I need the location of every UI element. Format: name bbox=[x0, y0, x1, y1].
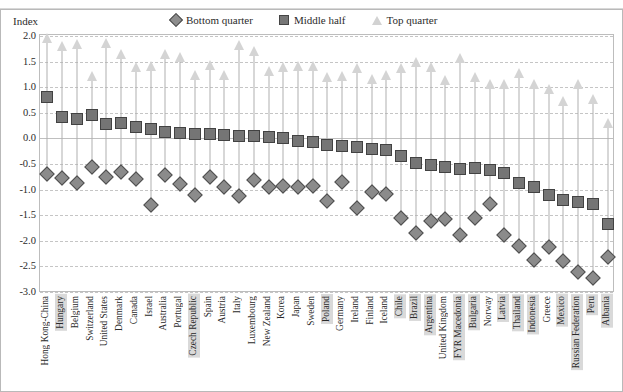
top-quarter-marker[interactable] bbox=[455, 53, 465, 63]
middle-half-marker[interactable] bbox=[41, 91, 53, 103]
bottom-quarter-marker[interactable] bbox=[202, 169, 218, 185]
top-quarter-marker[interactable] bbox=[101, 38, 111, 48]
top-quarter-marker[interactable] bbox=[470, 72, 480, 82]
bottom-quarter-marker[interactable] bbox=[187, 187, 203, 203]
data-column[interactable] bbox=[173, 35, 188, 291]
middle-half-marker[interactable] bbox=[233, 130, 245, 142]
top-quarter-marker[interactable] bbox=[146, 61, 156, 71]
bottom-quarter-marker[interactable] bbox=[128, 172, 144, 188]
middle-half-marker[interactable] bbox=[204, 128, 216, 140]
middle-half-marker[interactable] bbox=[100, 118, 112, 130]
bottom-quarter-marker[interactable] bbox=[364, 184, 380, 200]
bottom-quarter-marker[interactable] bbox=[69, 176, 85, 192]
top-quarter-marker[interactable] bbox=[175, 52, 185, 62]
data-column[interactable] bbox=[202, 35, 217, 291]
data-column[interactable] bbox=[379, 35, 394, 291]
middle-half-marker[interactable] bbox=[56, 111, 68, 123]
top-quarter-marker[interactable] bbox=[411, 57, 421, 67]
middle-half-marker[interactable] bbox=[425, 159, 437, 171]
top-quarter-marker[interactable] bbox=[234, 40, 244, 50]
middle-half-marker[interactable] bbox=[572, 196, 584, 208]
bottom-quarter-marker[interactable] bbox=[231, 188, 247, 204]
bottom-quarter-marker[interactable] bbox=[452, 227, 468, 243]
top-quarter-marker[interactable] bbox=[219, 70, 229, 80]
middle-half-marker[interactable] bbox=[498, 167, 510, 179]
data-column[interactable] bbox=[143, 35, 158, 291]
top-quarter-marker[interactable] bbox=[57, 41, 67, 51]
bottom-quarter-marker[interactable] bbox=[379, 186, 395, 202]
middle-half-marker[interactable] bbox=[366, 143, 378, 155]
bottom-quarter-marker[interactable] bbox=[438, 212, 454, 228]
middle-half-marker[interactable] bbox=[395, 150, 407, 162]
middle-half-marker[interactable] bbox=[336, 140, 348, 152]
bottom-quarter-marker[interactable] bbox=[334, 174, 350, 190]
bottom-quarter-marker[interactable] bbox=[54, 171, 70, 187]
bottom-quarter-marker[interactable] bbox=[217, 179, 233, 195]
bottom-quarter-marker[interactable] bbox=[84, 159, 100, 175]
top-quarter-marker[interactable] bbox=[337, 71, 347, 81]
top-quarter-marker[interactable] bbox=[440, 75, 450, 85]
data-column[interactable] bbox=[114, 35, 129, 291]
data-column[interactable] bbox=[600, 35, 615, 291]
middle-half-marker[interactable] bbox=[410, 157, 422, 169]
middle-half-marker[interactable] bbox=[513, 177, 525, 189]
top-quarter-marker[interactable] bbox=[485, 79, 495, 89]
top-quarter-marker[interactable] bbox=[367, 74, 377, 84]
top-quarter-marker[interactable] bbox=[264, 66, 274, 76]
middle-half-marker[interactable] bbox=[602, 218, 614, 230]
top-quarter-marker[interactable] bbox=[352, 63, 362, 73]
legend-item-diamond[interactable]: Bottom quarter bbox=[171, 14, 253, 26]
data-column[interactable] bbox=[246, 35, 261, 291]
bottom-quarter-marker[interactable] bbox=[113, 164, 129, 180]
bottom-quarter-marker[interactable] bbox=[467, 210, 483, 226]
top-quarter-marker[interactable] bbox=[131, 62, 141, 72]
top-quarter-marker[interactable] bbox=[529, 79, 539, 89]
middle-half-marker[interactable] bbox=[130, 121, 142, 133]
middle-half-marker[interactable] bbox=[115, 117, 127, 129]
bottom-quarter-marker[interactable] bbox=[290, 179, 306, 195]
data-column[interactable] bbox=[453, 35, 468, 291]
bottom-quarter-marker[interactable] bbox=[99, 169, 115, 185]
bottom-quarter-marker[interactable] bbox=[482, 196, 498, 212]
data-column[interactable] bbox=[512, 35, 527, 291]
top-quarter-marker[interactable] bbox=[558, 96, 568, 106]
middle-half-marker[interactable] bbox=[159, 126, 171, 138]
middle-half-marker[interactable] bbox=[174, 127, 186, 139]
middle-half-marker[interactable] bbox=[543, 189, 555, 201]
data-column[interactable] bbox=[55, 35, 70, 291]
top-quarter-marker[interactable] bbox=[160, 49, 170, 59]
data-column[interactable] bbox=[69, 35, 84, 291]
data-column[interactable] bbox=[556, 35, 571, 291]
top-quarter-marker[interactable] bbox=[249, 46, 259, 56]
top-quarter-marker[interactable] bbox=[116, 49, 126, 59]
data-column[interactable] bbox=[482, 35, 497, 291]
middle-half-marker[interactable] bbox=[292, 135, 304, 147]
bottom-quarter-marker[interactable] bbox=[40, 166, 56, 182]
bottom-quarter-marker[interactable] bbox=[349, 200, 365, 216]
top-quarter-marker[interactable] bbox=[381, 70, 391, 80]
bottom-quarter-marker[interactable] bbox=[305, 178, 321, 194]
bottom-quarter-marker[interactable] bbox=[408, 225, 424, 241]
data-column[interactable] bbox=[261, 35, 276, 291]
top-quarter-marker[interactable] bbox=[205, 60, 215, 70]
data-column[interactable] bbox=[305, 35, 320, 291]
data-column[interactable] bbox=[394, 35, 409, 291]
data-column[interactable] bbox=[541, 35, 556, 291]
legend-item-square[interactable]: Middle half bbox=[279, 14, 346, 26]
middle-half-marker[interactable] bbox=[351, 141, 363, 153]
data-column[interactable] bbox=[409, 35, 424, 291]
top-quarter-marker[interactable] bbox=[278, 62, 288, 72]
middle-half-marker[interactable] bbox=[248, 130, 260, 142]
middle-half-marker[interactable] bbox=[557, 194, 569, 206]
middle-half-marker[interactable] bbox=[484, 164, 496, 176]
data-column[interactable] bbox=[586, 35, 601, 291]
data-column[interactable] bbox=[40, 35, 55, 291]
middle-half-marker[interactable] bbox=[86, 109, 98, 121]
data-column[interactable] bbox=[497, 35, 512, 291]
bottom-quarter-marker[interactable] bbox=[143, 197, 159, 213]
bottom-quarter-marker[interactable] bbox=[497, 227, 513, 243]
top-quarter-marker[interactable] bbox=[42, 33, 52, 43]
bottom-quarter-marker[interactable] bbox=[275, 178, 291, 194]
middle-half-marker[interactable] bbox=[71, 113, 83, 125]
data-column[interactable] bbox=[320, 35, 335, 291]
